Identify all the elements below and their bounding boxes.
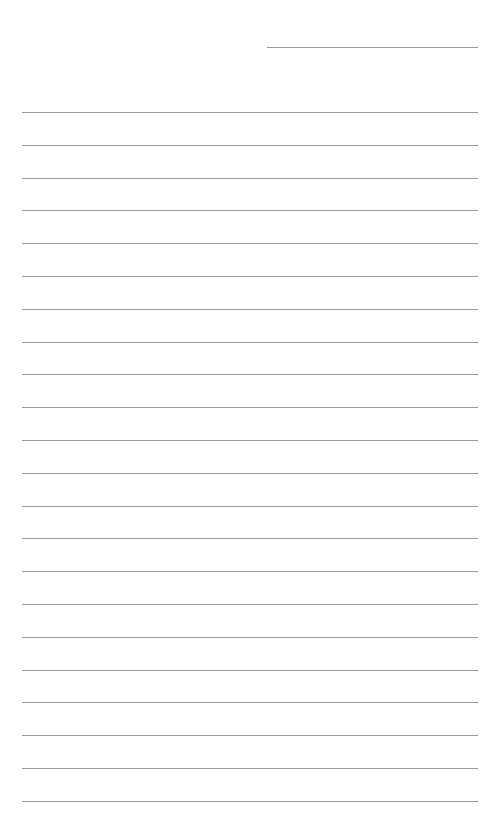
ruled-line [22,407,478,408]
ruled-line [22,768,478,769]
ruled-line [22,342,478,343]
ruled-line [22,276,478,277]
ruled-line [22,440,478,441]
ruled-line [22,735,478,736]
ruled-line [22,571,478,572]
ruled-line [22,604,478,605]
ruled-line [22,670,478,671]
ruled-line [22,702,478,703]
ruled-line [22,506,478,507]
ruled-line [22,243,478,244]
ruled-line [22,210,478,211]
ruled-line [22,538,478,539]
ruled-line [22,145,478,146]
ruled-line [22,374,478,375]
ruled-line [22,801,478,802]
ruled-line [22,112,478,113]
ruled-line [22,473,478,474]
ruled-line [22,637,478,638]
ruled-line [22,309,478,310]
header-date-line [267,47,478,48]
ruled-line [22,178,478,179]
lined-paper-page [0,0,496,826]
